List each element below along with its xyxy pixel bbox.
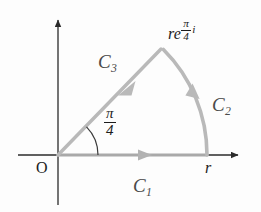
contour-c3-label: C3 (98, 52, 117, 75)
endpoint-exponent: π 4 i (181, 18, 195, 43)
contour-c2-label: C2 (212, 95, 231, 118)
contour-c1-arrowhead (138, 150, 152, 161)
endpoint-exponent-unit: i (192, 23, 195, 35)
radius-label: r (205, 160, 211, 176)
endpoint-label: re π 4 i (168, 18, 195, 43)
contour-segment-c2 (163, 50, 207, 156)
endpoint-exponent-numerator: π (181, 18, 191, 31)
contour-c1-label: C1 (133, 176, 152, 199)
contour-c2-subscript: 2 (225, 105, 231, 118)
origin-label: O (36, 160, 48, 176)
contour-c1-letter: C (133, 175, 146, 196)
endpoint-base: re (168, 25, 181, 42)
complex-contour-figure: O r C1 C2 C3 π 4 re π 4 i (0, 0, 261, 212)
angle-arc (87, 127, 99, 155)
contour-c3-letter: C (98, 51, 111, 72)
angle-numerator: π (104, 106, 116, 123)
contour-c1-subscript: 1 (146, 186, 152, 199)
endpoint-exponent-denominator: 4 (181, 31, 191, 43)
contour-c2-arrowhead (185, 84, 199, 100)
contour-c3-subscript: 3 (111, 62, 117, 75)
angle-label: π 4 (104, 106, 116, 139)
contour-c2-letter: C (212, 94, 225, 115)
angle-fraction: π 4 (104, 106, 116, 139)
angle-denominator: 4 (104, 123, 116, 139)
endpoint-exponent-fraction: π 4 (181, 18, 191, 43)
